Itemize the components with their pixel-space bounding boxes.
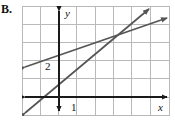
coordinate-plane: y x 2 1 [22, 6, 170, 116]
graph-svg: y x 2 1 [22, 6, 170, 116]
y-axis-label: y [64, 7, 70, 19]
x-axis-label: x [157, 101, 163, 113]
y-tick-label: 2 [45, 60, 51, 72]
figure-panel: B. [0, 0, 175, 120]
x-tick-label: 1 [71, 101, 77, 113]
part-label: B. [1, 2, 12, 17]
